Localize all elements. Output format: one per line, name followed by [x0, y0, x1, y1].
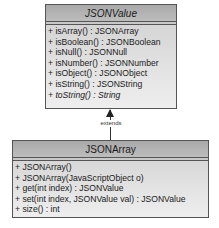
member-list-jsonarray: + JSONArray() + JSONArray(JavaScriptObje… — [13, 161, 208, 215]
member-isnull: + isNull() : JSONNull — [48, 47, 176, 58]
class-name-jsonarray: JSONArray — [13, 141, 208, 158]
inheritance-arrowhead-icon — [106, 109, 114, 117]
relationship-label: extends — [96, 120, 126, 127]
member-tostring: + toString() : String — [48, 90, 176, 101]
member-isarray: + isArray() : JSONArray — [48, 26, 176, 37]
member-isboolean: + isBoolean() : JSONBoolean — [48, 37, 176, 48]
member-isobject: + isObject() : JSONObject — [48, 68, 176, 79]
member-get: + get(int index) : JSONValue — [15, 183, 208, 194]
member-constructor-default: + JSONArray() — [15, 162, 208, 173]
member-list-jsonvalue: + isArray() : JSONArray + isBoolean() : … — [46, 25, 176, 100]
member-set: + set(int index, JSONValue val) : JSONVa… — [15, 194, 208, 205]
member-size: + size() : int — [15, 204, 208, 215]
member-isnumber: + isNumber() : JSONNumber — [48, 58, 176, 69]
member-constructor-jso: + JSONArray(JavaScriptObject o) — [15, 173, 208, 184]
class-name-jsonvalue: JSONValue — [46, 5, 176, 22]
class-box-jsonvalue: JSONValue + isArray() : JSONArray + isBo… — [45, 4, 177, 109]
member-isstring: + isString() : JSONString — [48, 79, 176, 90]
class-box-jsonarray: JSONArray + JSONArray() + JSONArray(Java… — [12, 140, 209, 218]
